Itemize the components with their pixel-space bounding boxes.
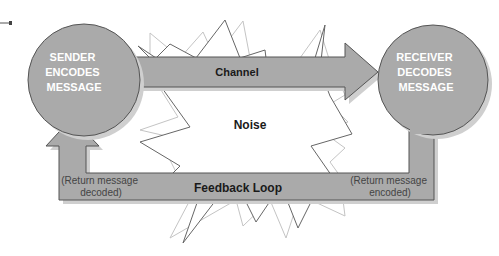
feedback-loop-label: Feedback Loop	[194, 181, 282, 195]
sender-label: SENDER ENCODES MESSAGE	[45, 51, 102, 93]
receiver-label: RECEIVER DECODES MESSAGE	[396, 51, 455, 93]
communication-diagram: SENDER ENCODES MESSAGE RECEIVER DECODES …	[0, 0, 499, 256]
corner-marker	[0, 21, 12, 25]
noise-label: Noise	[234, 118, 267, 132]
channel-label: Channel	[215, 66, 258, 78]
